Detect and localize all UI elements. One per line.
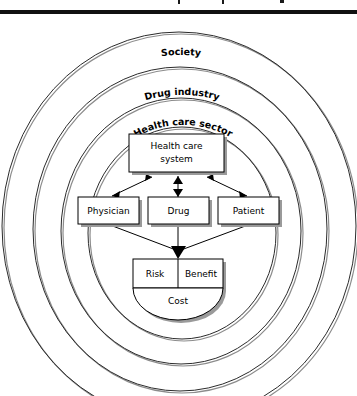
node-health-care-system-label-line1: Health care <box>151 141 203 151</box>
outcome-risk-label: Risk <box>146 269 165 279</box>
outcome-benefit-label: Benefit <box>185 269 218 279</box>
node-physician-label: Physician <box>87 206 129 216</box>
node-patient-label: Patient <box>233 206 265 216</box>
node-health-care-system[interactable]: Health care system <box>129 134 227 175</box>
header-divider-rule <box>0 10 357 14</box>
node-health-care-system-label-line2: system <box>160 154 193 164</box>
node-drug-label: Drug <box>167 206 189 216</box>
figure-container: Society Drug industry Health care sector <box>0 0 357 396</box>
outcome-cost-label: Cost <box>168 296 188 306</box>
node-physician[interactable]: Physician <box>78 197 142 227</box>
node-patient[interactable]: Patient <box>218 197 282 227</box>
ring-label-society: Society <box>160 46 202 58</box>
node-drug[interactable]: Drug <box>148 197 212 227</box>
